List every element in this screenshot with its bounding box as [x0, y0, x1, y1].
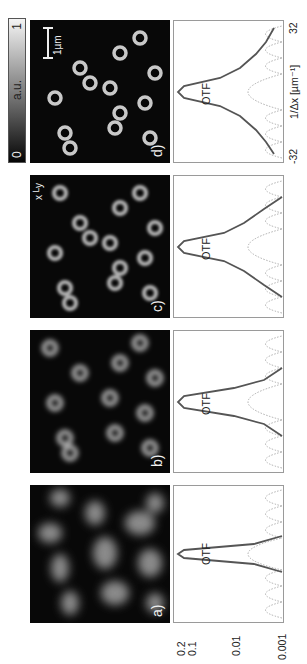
image-panel-c: c) x└y	[30, 175, 170, 318]
y-tick-0.001: 0.001	[276, 634, 288, 660]
figure: 0 a.u. 1 a) b)	[0, 0, 307, 664]
colorbar-min: 0	[10, 151, 24, 158]
panel-label: d)	[149, 145, 165, 157]
x-tick-max: 32	[287, 22, 299, 34]
otf-label: OTF	[200, 83, 212, 105]
x-tick-min: -32	[287, 149, 299, 164]
y-tick-0.01: 0.01	[230, 636, 242, 656]
colorbar-unit: a.u.	[10, 80, 24, 100]
image-panel-a: a)	[30, 485, 170, 623]
otf-plot-d: OTF	[173, 20, 284, 163]
scale-bar-label: 1µm	[52, 35, 63, 55]
otf-label: OTF	[200, 393, 212, 415]
panel-label: b)	[149, 455, 165, 467]
panel-label: a)	[149, 605, 165, 617]
axes-indicator: x└y	[33, 183, 44, 200]
particles-image	[30, 330, 170, 473]
otf-plot-c: OTF	[173, 175, 284, 318]
otf-curve	[174, 331, 283, 472]
x-axis-label: 1/Δx [µm⁻¹]	[288, 65, 300, 119]
blurred-particles-image	[30, 485, 170, 623]
particles-image	[30, 20, 170, 163]
otf-plot-a: OTF	[173, 485, 284, 623]
y-tick-0.1: 0.1	[186, 641, 198, 656]
panel-label: c)	[149, 300, 165, 312]
otf-label: OTF	[200, 238, 212, 260]
particles-image	[30, 175, 170, 318]
colorbar-max: 1	[10, 23, 24, 30]
otf-label: OTF	[200, 543, 212, 565]
otf-curve	[174, 21, 283, 162]
otf-plot-b: OTF	[173, 330, 284, 473]
image-panel-b: b)	[30, 330, 170, 473]
otf-curve	[174, 176, 283, 317]
colorbar: 0 a.u. 1	[8, 18, 26, 163]
otf-curve	[174, 486, 283, 622]
image-panel-d: d) 1µm	[30, 20, 170, 163]
